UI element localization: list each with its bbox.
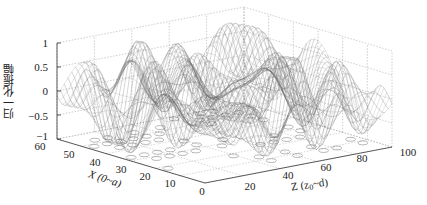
amp-tick-neg0.5: −0.5	[28, 110, 48, 122]
x-tick-30: 30	[116, 163, 128, 175]
z-tick-80: 80	[357, 152, 369, 164]
x-tick-20: 20	[140, 170, 152, 182]
z-tick-20: 20	[245, 180, 257, 192]
x-tick-60: 60	[35, 140, 47, 152]
x-tick-50: 50	[64, 148, 76, 160]
z-tick-60: 60	[321, 161, 333, 173]
amp-tick-0: 0	[43, 85, 49, 97]
amp-tick-1: 1	[43, 37, 49, 49]
z-tick-40: 40	[283, 169, 295, 181]
x-tick-10: 10	[165, 177, 177, 189]
z-axis-title: Z (z0~d)	[290, 175, 329, 194]
x-tick-0: 0	[199, 185, 205, 197]
z-title-suffix: ~d)	[312, 175, 329, 190]
amp-tick-0.5: 0.5	[34, 61, 48, 73]
z-title-prefix: Z (z	[290, 178, 310, 193]
z-tick-100: 100	[400, 146, 417, 158]
mesh-surface	[57, 23, 392, 156]
surface-plot: 1 0.5 0 −0.5 −1 60 50 40 30 20 10 0 20 4…	[0, 0, 427, 205]
x-tick-40: 40	[90, 156, 102, 168]
